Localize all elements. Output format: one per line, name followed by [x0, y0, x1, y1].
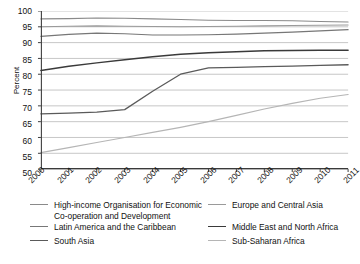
legend-item[interactable]: Sub-Saharan Africa [208, 236, 305, 247]
y-tick-label: 90 [23, 39, 32, 48]
series-line-0 [41, 18, 348, 22]
y-axis-tick-labels: 10095908580757065605550 [8, 0, 32, 264]
legend-swatch-icon [30, 226, 48, 227]
legend-label: South Asia [54, 236, 94, 247]
y-tick-label: 60 [23, 136, 32, 145]
legend-swatch-icon [30, 240, 48, 241]
line-chart: Percent 10095908580757065605550 20002001… [0, 0, 360, 264]
legend-label: High-income Organisation for Economic [54, 200, 202, 211]
legend-label: Latin America and the Caribbean [54, 222, 176, 233]
legend-label: Sub-Saharan Africa [232, 236, 305, 247]
x-axis-tick-labels: 2000200120022003200420052006200720082009… [0, 176, 360, 202]
y-tick-label: 65 [23, 120, 32, 129]
legend-swatch-icon [208, 204, 226, 205]
y-tick-label: 75 [23, 88, 32, 97]
series-line-2 [41, 30, 348, 37]
plot-area [37, 11, 352, 173]
y-tick-label: 95 [23, 23, 32, 32]
y-tick-label: 85 [23, 55, 32, 64]
legend-label-continued: Co-operation and Development [54, 211, 202, 222]
legend-label: Middle East and North Africa [232, 222, 338, 233]
y-tick-label: 55 [23, 153, 32, 162]
legend-item[interactable]: Latin America and the Caribbean [30, 222, 176, 233]
y-tick-label: 70 [23, 104, 32, 113]
legend-item[interactable]: South Asia [30, 236, 94, 247]
series-line-4 [41, 65, 348, 114]
legend-label: Europe and Central Asia [232, 200, 323, 211]
y-tick-label: 80 [23, 72, 32, 81]
legend-item[interactable]: High-income Organisation for EconomicCo-… [30, 200, 202, 221]
y-tick-label: 100 [18, 7, 32, 16]
series-line-3 [41, 50, 348, 70]
plot-svg [37, 11, 352, 173]
legend-swatch-icon [30, 204, 48, 205]
legend-swatch-icon [208, 226, 226, 227]
legend-item[interactable]: Europe and Central Asia [208, 200, 323, 211]
legend-swatch-icon [208, 240, 226, 241]
chart-legend: High-income Organisation for EconomicCo-… [30, 200, 360, 260]
legend-item[interactable]: Middle East and North Africa [208, 222, 338, 233]
series-line-5 [41, 94, 348, 152]
